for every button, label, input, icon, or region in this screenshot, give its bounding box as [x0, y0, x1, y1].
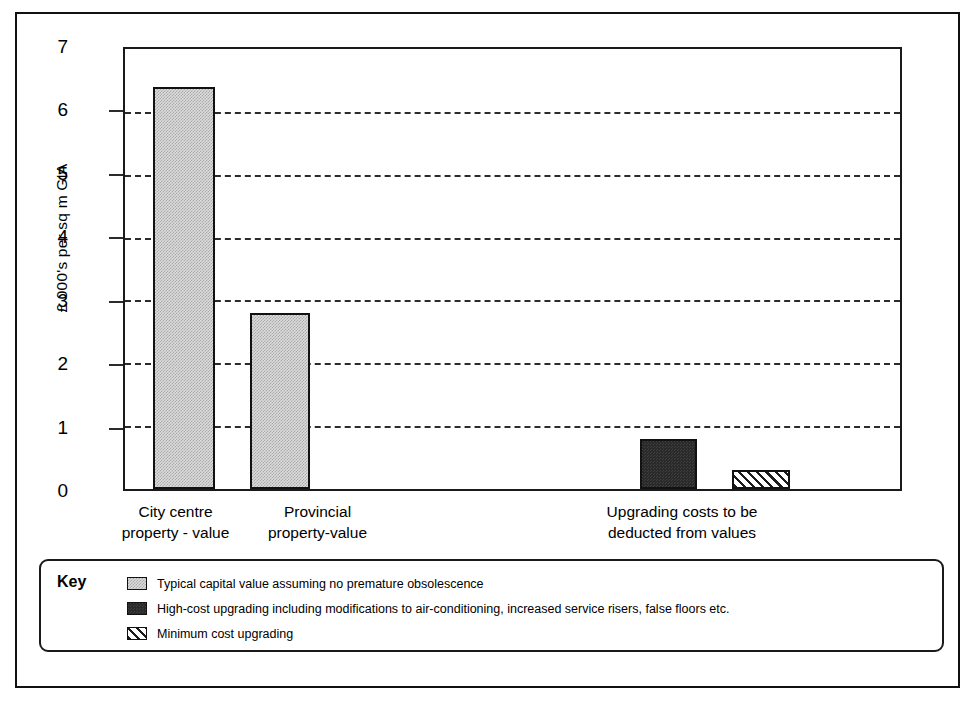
x-label-upgrading-costs-line1: Upgrading costs to be: [557, 501, 807, 522]
y-tick-mark-4: [109, 237, 123, 239]
bar-high-cost-upgrading[interactable]: [640, 439, 697, 489]
bar-minimum-cost-upgrading[interactable]: [732, 470, 790, 489]
key-swatch-diagonal-hatch-icon: [127, 627, 147, 640]
key-label-typical-capital-value: Typical capital value assuming no premat…: [157, 577, 484, 591]
gridline-1: [125, 426, 900, 428]
x-label-upgrading-costs-line2: deducted from values: [557, 522, 807, 543]
gridline-6: [125, 112, 900, 114]
y-tick-mark-6: [109, 110, 123, 112]
bar-city-centre-value[interactable]: [153, 87, 215, 489]
figure-frame: £ 000's per sq m GIA 7 6 5 4 3 2 1 0: [15, 12, 960, 688]
key-swatch-light-stipple-icon: [127, 577, 147, 590]
x-label-city-centre: City centre property - value: [93, 501, 258, 543]
y-tick-label-0: 0: [28, 481, 68, 500]
chart-area: £ 000's per sq m GIA 7 6 5 4 3 2 1 0: [17, 14, 962, 554]
key-box: Key Typical capital value assuming no pr…: [39, 559, 944, 652]
y-tick-label-3: 3: [28, 291, 68, 310]
gridline-3: [125, 300, 900, 302]
y-tick-mark-2: [109, 364, 123, 366]
x-label-provincial: Provincial property-value: [235, 501, 400, 543]
key-item-high-cost-upgrading[interactable]: High-cost upgrading including modificati…: [127, 596, 934, 621]
x-label-provincial-line2: property-value: [235, 522, 400, 543]
gridline-2: [125, 363, 900, 365]
x-label-city-centre-line2: property - value: [93, 522, 258, 543]
gridline-5: [125, 175, 900, 177]
key-title: Key: [57, 573, 86, 591]
y-tick-label-2: 2: [28, 354, 68, 373]
gridline-4: [125, 238, 900, 240]
bar-provincial-value[interactable]: [250, 313, 310, 489]
y-tick-label-6: 6: [28, 100, 68, 119]
x-label-provincial-line1: Provincial: [235, 501, 400, 522]
key-item-minimum-cost-upgrading[interactable]: Minimum cost upgrading: [127, 621, 934, 646]
key-label-minimum-cost-upgrading: Minimum cost upgrading: [157, 627, 293, 641]
plot-area: [123, 47, 902, 491]
y-tick-mark-1: [109, 428, 123, 430]
key-swatch-solid-dark-icon: [127, 602, 147, 615]
x-label-city-centre-line1: City centre: [93, 501, 258, 522]
y-tick-mark-3: [109, 301, 123, 303]
y-tick-label-7: 7: [28, 37, 68, 56]
x-label-upgrading-costs: Upgrading costs to be deducted from valu…: [557, 501, 807, 543]
key-items: Typical capital value assuming no premat…: [127, 571, 934, 646]
y-tick-mark-5: [109, 174, 123, 176]
key-label-high-cost-upgrading: High-cost upgrading including modificati…: [157, 602, 730, 616]
y-tick-label-5: 5: [28, 164, 68, 183]
y-tick-label-4: 4: [28, 227, 68, 246]
key-item-typical-capital-value[interactable]: Typical capital value assuming no premat…: [127, 571, 934, 596]
y-tick-label-1: 1: [28, 418, 68, 437]
